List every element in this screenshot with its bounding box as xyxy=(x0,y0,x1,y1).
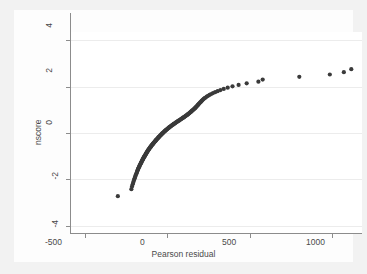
data-point xyxy=(256,80,260,84)
data-point xyxy=(116,194,120,198)
plot-svg xyxy=(70,32,362,234)
x-tick-label-neg500: -500 xyxy=(45,238,62,247)
data-point xyxy=(261,78,265,82)
data-point xyxy=(222,87,226,91)
data-point xyxy=(342,70,346,74)
x-axis-title: Pearson residual xyxy=(14,250,353,259)
y-tick-label-0: 0 xyxy=(45,120,54,125)
data-point xyxy=(245,81,249,85)
gridlines xyxy=(70,41,362,227)
y-tick-label-neg4: -4 xyxy=(51,220,60,228)
axis-ticks xyxy=(66,41,333,239)
y-tick-label-4: 4 xyxy=(45,23,54,28)
plot-area xyxy=(70,32,362,234)
data-point xyxy=(226,86,230,90)
y-axis-title: nscore xyxy=(34,119,43,145)
y-tick-label-2: 2 xyxy=(45,68,54,73)
axis-lines xyxy=(70,13,362,234)
chart-figure: 4 2 0 -2 -4 nscore -500 0 500 1000 Pears… xyxy=(0,0,367,274)
x-tick-label-1000: 1000 xyxy=(306,238,325,247)
data-point xyxy=(328,72,332,76)
data-point xyxy=(230,84,234,88)
x-tick-label-0: 0 xyxy=(140,238,145,247)
chart-canvas: 4 2 0 -2 -4 nscore -500 0 500 1000 Pears… xyxy=(14,10,353,262)
data-point xyxy=(237,83,241,87)
data-points xyxy=(116,67,354,198)
y-tick-label-neg2: -2 xyxy=(51,172,60,180)
x-tick-label-500: 500 xyxy=(222,238,236,247)
data-point xyxy=(349,67,353,71)
data-point xyxy=(297,75,301,79)
